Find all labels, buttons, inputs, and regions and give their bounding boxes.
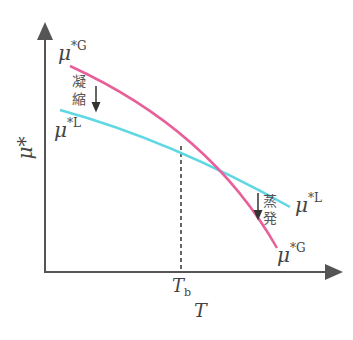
liquid-label-right: μ*L [295, 191, 322, 217]
gas-label-right: μ*G [277, 241, 306, 267]
condensation-label-2: 縮 [72, 91, 86, 107]
gas-curve [70, 66, 277, 248]
gas-label-top: μ*G [58, 39, 87, 65]
evaporation-label-2: 発 [263, 210, 277, 226]
tb-tick-label: Tb [172, 275, 191, 299]
condensation-label-1: 凝 [72, 73, 86, 89]
liquid-label-left: μ*L [54, 116, 81, 142]
chemical-potential-diagram: μ* μ*G μ*L μ*L μ*G 凝 縮 蒸 発 Tb T [0, 0, 353, 340]
y-axis-label: μ* [13, 137, 37, 160]
evaporation-label-1: 蒸 [263, 193, 277, 209]
liquid-curve [60, 110, 290, 207]
x-axis-label: T [194, 299, 208, 321]
